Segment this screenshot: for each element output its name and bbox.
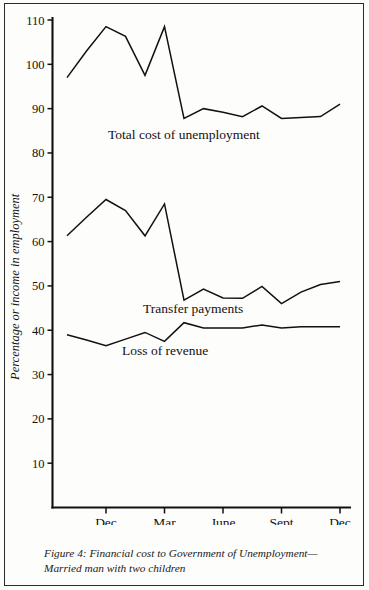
- y-axis-title: Percentage or income in employment: [8, 193, 22, 381]
- x-axis-group: Dec1977MarJune1978SeptDec: [53, 508, 351, 526]
- y-tick-label: 70: [32, 191, 45, 205]
- x-tick-label: Dec: [95, 515, 117, 526]
- y-tick-label: 20: [32, 412, 45, 426]
- y-tick-label: 110: [26, 14, 44, 28]
- data-series-group: [67, 27, 340, 346]
- series-line-transfer-payments: [67, 199, 340, 303]
- y-axis-group: 102030405060708090100110: [26, 14, 53, 508]
- x-tick-label: June: [211, 515, 236, 526]
- y-tick-label: 50: [32, 279, 45, 293]
- figure-caption: Figure 4: Financial cost to Government o…: [44, 546, 352, 576]
- series-annotation-total-cost: Total cost of unemployment: [108, 127, 260, 142]
- y-tick-label: 90: [32, 102, 45, 116]
- x-tick-label: Dec: [329, 515, 351, 526]
- x-tick-label: Mar: [153, 515, 176, 526]
- y-tick-label: 80: [32, 146, 45, 160]
- series-line-total-cost: [67, 27, 340, 119]
- figure-container: 102030405060708090100110 Dec1977MarJune1…: [0, 0, 369, 590]
- y-tick-label: 40: [32, 324, 45, 338]
- y-tick-labels: 102030405060708090100110: [26, 14, 45, 471]
- caption-divider-rule: [5, 585, 363, 586]
- y-tick-label: 60: [32, 235, 45, 249]
- series-annotation-loss-of-revenue: Loss of revenue: [122, 343, 208, 358]
- y-tick-label: 10: [32, 457, 45, 471]
- line-chart: 102030405060708090100110 Dec1977MarJune1…: [0, 0, 369, 525]
- x-tick-label: Sept: [269, 515, 293, 526]
- y-tick-label: 100: [26, 58, 45, 72]
- series-annotation-transfer-payments: Transfer payments: [143, 301, 243, 316]
- y-tick-label: 30: [32, 368, 45, 382]
- x-tick-labels: Dec1977MarJune1978SeptDec: [93, 515, 351, 526]
- chart-plot-area: 102030405060708090100110 Dec1977MarJune1…: [0, 0, 369, 525]
